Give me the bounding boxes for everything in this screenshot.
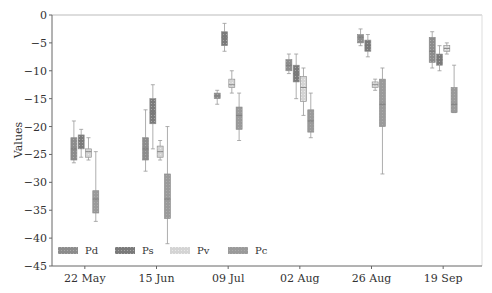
x-tick-label: 19 Sep <box>424 272 463 285</box>
x-tick-label: 22 May <box>64 272 106 285</box>
legend-label: Pc <box>255 245 268 256</box>
box-pc <box>164 127 170 244</box>
box-ps <box>222 23 228 51</box>
y-axis: 0−5−10−15−20−25−30−35−40−45 <box>24 9 52 273</box>
box-pd <box>429 32 435 68</box>
box-ps <box>78 129 84 157</box>
box-pd <box>214 90 220 104</box>
box-pv <box>157 141 163 161</box>
y-tick-label: −15 <box>24 93 47 106</box>
box-pv <box>372 79 378 90</box>
x-axis: 22 May15 Jun09 Jul02 Aug26 Aug19 Sep <box>64 266 462 285</box>
box-ps <box>365 35 371 57</box>
box-pc <box>236 93 242 140</box>
box-pd <box>286 54 292 74</box>
legend-label: Ps <box>142 245 154 256</box>
legend-item-ps: Ps <box>115 245 154 256</box>
y-tick-label: −30 <box>24 176 47 189</box>
box-pd <box>358 29 364 46</box>
box-plot-chart: 0−5−10−15−20−25−30−35−40−45 22 May15 Jun… <box>0 0 492 293</box>
legend-label: Pv <box>197 245 210 256</box>
box-pv <box>85 138 91 160</box>
box-pc <box>93 152 99 222</box>
box-ps <box>150 85 156 149</box>
box-pd <box>71 121 77 163</box>
box-pc <box>308 93 314 138</box>
legend-label: Pd <box>85 245 99 256</box>
box-pd <box>143 110 149 171</box>
y-tick-label: −35 <box>24 204 47 217</box>
box-pv <box>300 68 306 115</box>
plot-area <box>52 15 482 266</box>
y-tick-label: 0 <box>40 9 47 22</box>
y-tick-label: −20 <box>24 121 47 134</box>
x-tick-label: 26 Aug <box>352 272 392 285</box>
x-tick-label: 09 Jul <box>212 272 245 285</box>
y-tick-label: −45 <box>24 260 47 273</box>
box-pv <box>444 43 450 54</box>
x-tick-label: 15 Jun <box>138 272 174 285</box>
box-pc <box>379 68 385 174</box>
legend-item-pc: Pc <box>228 245 268 256</box>
box-pv <box>229 71 235 93</box>
box-ps <box>293 54 299 99</box>
legend: PdPsPvPc <box>58 245 268 256</box>
y-axis-title: Values <box>12 122 25 160</box>
box-pc <box>451 65 457 112</box>
legend-item-pv: Pv <box>170 245 210 256</box>
y-tick-label: −10 <box>24 65 47 78</box>
y-tick-label: −5 <box>31 37 47 50</box>
y-tick-label: −25 <box>24 148 47 161</box>
box-ps <box>437 46 443 71</box>
legend-item-pd: Pd <box>58 245 99 256</box>
x-tick-label: 02 Aug <box>280 272 320 285</box>
y-tick-label: −40 <box>24 232 47 245</box>
